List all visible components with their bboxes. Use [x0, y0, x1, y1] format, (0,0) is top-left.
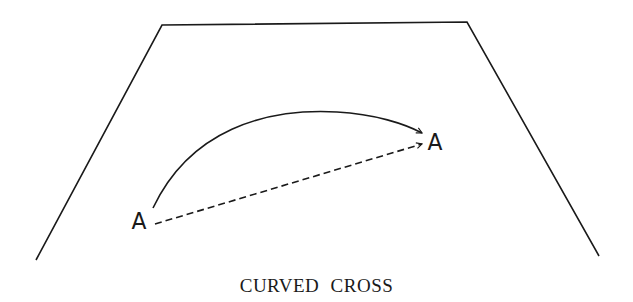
dashed-path-arrow — [155, 144, 422, 224]
start-point-label: A — [131, 210, 146, 233]
curved-path-arrow — [153, 112, 422, 208]
court-outline — [36, 22, 599, 260]
end-point-label: A — [427, 131, 442, 154]
curved-cross-diagram — [0, 0, 633, 302]
figure-caption: CURVED CROSS — [0, 275, 633, 297]
